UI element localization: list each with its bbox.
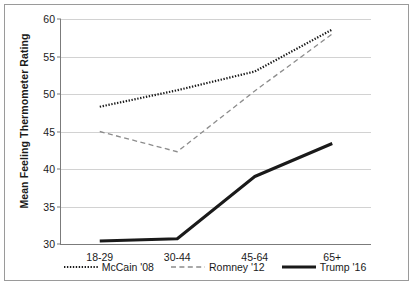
y-axis-tick-label: 35 <box>43 201 55 213</box>
series-line <box>100 30 333 107</box>
legend-entry[interactable]: Trump '16 <box>282 261 367 273</box>
series-lines <box>61 19 371 244</box>
y-axis-tick-label: 50 <box>43 88 55 100</box>
legend-label: Romney '12 <box>209 261 265 273</box>
legend-swatch-solid-icon <box>282 262 316 272</box>
series-line <box>100 144 333 242</box>
y-axis-tick-label: 30 <box>43 238 55 250</box>
legend-entry[interactable]: Romney '12 <box>171 261 265 273</box>
chart-legend: McCain '08Romney '12Trump '16 <box>60 261 370 273</box>
series-line <box>100 34 333 152</box>
legend-swatch-dashed-icon <box>171 262 205 272</box>
legend-entry[interactable]: McCain '08 <box>64 261 154 273</box>
y-axis-tick-label: 40 <box>43 163 55 175</box>
legend-label: McCain '08 <box>102 261 154 273</box>
legend-swatch-dotted-icon <box>64 262 98 272</box>
y-axis-title: Mean Feeling Thermometer Rating <box>18 6 30 236</box>
chart-frame: Mean Feeling Thermometer Rating 60555045… <box>4 4 409 281</box>
y-axis-tick-label: 55 <box>43 51 55 63</box>
gridline <box>61 244 371 245</box>
plot-area: 60555045403530 18-2930-4445-6465+ <box>60 19 371 245</box>
legend-label: Trump '16 <box>320 261 367 273</box>
y-axis-tick-label: 45 <box>43 126 55 138</box>
y-axis-tick-label: 60 <box>43 13 55 25</box>
